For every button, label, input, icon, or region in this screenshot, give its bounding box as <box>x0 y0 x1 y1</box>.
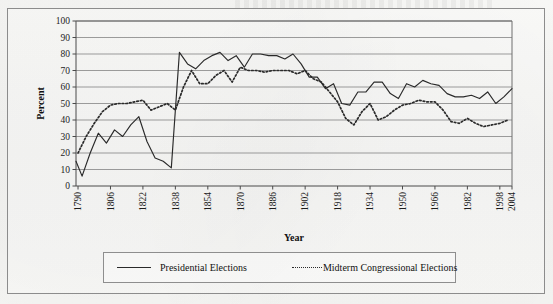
y-axis-tick-labels: 0102030405060708090100 <box>56 16 71 191</box>
y-tick-label: 50 <box>61 99 71 109</box>
x-tick-label: 1902 <box>300 192 310 211</box>
y-tick-label: 20 <box>61 148 71 158</box>
x-tick-label: 1854 <box>203 192 213 211</box>
legend-label-presidential: Presidential Elections <box>160 262 247 273</box>
y-tick-label: 70 <box>61 66 71 76</box>
y-tick-label: 80 <box>61 49 71 59</box>
legend-label-midterm: Midterm Congressional Elections <box>323 262 457 273</box>
x-tick-label: 1950 <box>398 192 408 211</box>
x-tick-label: 1838 <box>171 192 181 211</box>
y-tick-label: 30 <box>61 132 71 142</box>
x-tick-label: 1966 <box>430 192 440 211</box>
y-tick-label: 10 <box>61 165 71 175</box>
y-tick-label: 0 <box>65 181 70 191</box>
x-tick-label: 1822 <box>138 192 148 211</box>
x-tick-label: 1934 <box>365 192 375 211</box>
x-tick-label: 1998 <box>495 192 505 211</box>
series-line-midterm <box>78 67 508 153</box>
x-tick-label: 1806 <box>106 192 116 211</box>
gridlines <box>73 21 513 186</box>
y-tick-label: 60 <box>61 82 71 92</box>
chart-legend: Presidential Elections Midterm Congressi… <box>103 252 456 283</box>
x-tick-label: 1982 <box>463 192 473 211</box>
y-tick-label: 40 <box>61 115 71 125</box>
x-tick-label: 1790 <box>73 192 83 211</box>
x-tick-label: 1886 <box>268 192 278 211</box>
x-tick-label: 1918 <box>333 192 343 211</box>
figure-page: 0102030405060708090100 17901806182218381… <box>0 0 553 304</box>
x-axis-tick-labels: 1790180618221838185418701886190219181934… <box>73 192 517 211</box>
x-axis-tick-marks <box>78 186 512 190</box>
y-tick-label: 100 <box>56 16 71 26</box>
legend-swatch-solid-line-icon <box>117 267 151 268</box>
legend-swatch-dotted-line-icon <box>292 267 322 268</box>
legend-item-midterm: Midterm Congressional Elections <box>292 262 457 273</box>
x-axis-title: Year <box>284 232 305 243</box>
x-tick-label: 2004 <box>507 192 517 211</box>
y-axis-title: Percent <box>35 87 46 120</box>
legend-item-presidential: Presidential Elections <box>117 262 247 273</box>
x-tick-label: 1870 <box>236 192 246 211</box>
y-tick-label: 90 <box>61 33 71 43</box>
